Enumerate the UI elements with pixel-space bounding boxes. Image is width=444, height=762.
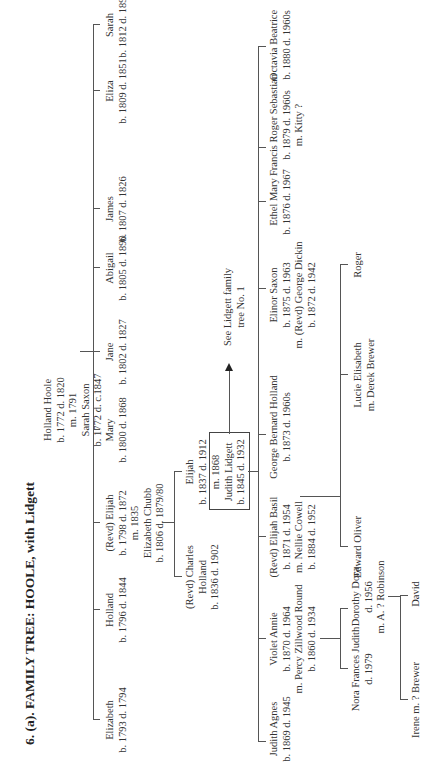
spouse-dates: b. 1845 d. 1932 xyxy=(235,439,248,505)
person-name: Elizabeth xyxy=(104,687,117,753)
connector xyxy=(93,208,100,209)
marriage-year: m. 1835 xyxy=(129,483,142,562)
person-name: Sarah xyxy=(104,0,117,58)
spouse-dates: b. 1860 d. 1934 xyxy=(306,584,319,693)
person-abigail: Abigail b. 1805 d. 1890 xyxy=(104,235,129,301)
person-violet-annie: Violet Annie b. 1870 d. 1964 m. Percy Zi… xyxy=(268,584,318,693)
person-name: Elinor Saxon xyxy=(268,241,281,348)
connector xyxy=(93,522,100,523)
person-dates: b. 1875 d. 1963 xyxy=(281,241,294,348)
person-george-bernard-holland: George Bernard Holland b. 1873 d. 1960s xyxy=(268,375,293,479)
person-dates: b. 1796 d. 1844 xyxy=(117,577,130,643)
spouse-name: m. Derek Brewer xyxy=(365,339,378,412)
person-dates: b. 1880 d. 1960s xyxy=(281,10,294,80)
connector xyxy=(162,522,174,523)
marriage-year: m. 1868 xyxy=(210,439,223,505)
person-dates: b. 1869 d. 1945 xyxy=(281,696,294,762)
root-name: Holland Hoole xyxy=(42,374,55,447)
person-dates: b. 1873 d. 1960s xyxy=(281,375,294,479)
person-name: Francis Roger Sebastian xyxy=(268,74,281,176)
connector xyxy=(258,147,266,148)
spouse-name: m. A. ? Robinson xyxy=(375,560,388,633)
person-francis-roger-sebastian: Francis Roger Sebastian b. 1879 d. 1960s… xyxy=(268,74,306,176)
person-jane: Jane b. 1802 d. 1827 xyxy=(104,319,129,385)
person-mary: Mary b. 1800 d. 1868 xyxy=(104,397,129,463)
person-name: Nora Frances Judith xyxy=(350,627,363,712)
spouse-name: Judith Lidgett xyxy=(223,439,236,505)
person-name: Lucie Elisabeth xyxy=(352,339,365,412)
connector xyxy=(258,288,266,289)
person-revd-charles-holland: (Revd) Charles Holland b. 1836 d. 1902 xyxy=(184,544,222,610)
person-edward-oliver: Edward Oliver xyxy=(352,516,365,578)
person-name: Violet Annie xyxy=(268,584,281,693)
arrow-right-icon xyxy=(225,363,233,371)
connector xyxy=(300,496,340,497)
person-eliza: Eliza b. 1809 d. 1851 xyxy=(104,58,129,124)
connector xyxy=(80,351,100,352)
person-revd-elijah: (Revd) Elijah b. 1798 d. 1872 m. 1835 El… xyxy=(104,483,167,562)
connector xyxy=(93,24,100,25)
person-name: Jane xyxy=(104,319,117,385)
person-dates: b. 1802 d. 1827 xyxy=(117,319,130,385)
person-name: (Revd) Elijah Basil xyxy=(268,496,281,577)
person-sarah: Sarah b. 1812 d. 1894 xyxy=(104,0,129,58)
gen2-bar xyxy=(174,472,175,577)
connector xyxy=(93,90,100,91)
person-dates: b. 1836 d. 1902 xyxy=(209,544,222,610)
person-lucie-elisabeth: Lucie Elisabeth m. Derek Brewer xyxy=(352,339,377,412)
connector xyxy=(340,546,348,547)
root-couple: Holland Hoole b. 1772 d. 1820 m. 1791 Sa… xyxy=(42,374,105,447)
person-dates: b. 1876 d. 1967 xyxy=(281,169,294,235)
connector xyxy=(93,719,100,720)
connector xyxy=(340,608,348,609)
person-dates: b. 1807 d. 1826 xyxy=(117,176,130,242)
gen4-bar-violet xyxy=(340,609,341,669)
connector xyxy=(340,264,348,265)
person-name: Mary xyxy=(104,397,117,463)
gen5-bar xyxy=(400,596,401,700)
connector xyxy=(340,374,348,375)
note-line: tree No. 1 xyxy=(235,268,248,346)
connector xyxy=(248,471,258,472)
person-revd-elijah-basil: (Revd) Elijah Basil b. 1871 d. 1954 m. N… xyxy=(268,496,318,577)
person-judith-agnes: Judith Agnes b. 1869 d. 1945 xyxy=(268,696,293,762)
person-name: Edward Oliver xyxy=(352,516,365,578)
person-james: James b. 1807 d. 1826 xyxy=(104,176,129,242)
connector xyxy=(400,699,408,700)
person-name: George Bernard Holland xyxy=(268,375,281,479)
person-name: Holland xyxy=(104,577,117,643)
person-dates: d. 1979 xyxy=(363,627,376,712)
connector xyxy=(320,638,330,639)
spouse-name: m. Nellie Cowell xyxy=(293,496,306,577)
person-name: Eliza xyxy=(104,58,117,124)
person-ethel-mary: Ethel Mary b. 1876 d. 1967 xyxy=(268,169,293,235)
person-dates: b. 1871 d. 1954 xyxy=(281,496,294,577)
person-name: David xyxy=(410,581,423,607)
note-line: See Lidgett family xyxy=(222,268,235,346)
person-name-cont: Holland xyxy=(197,544,210,610)
spouse-name: Elizabeth Chubb xyxy=(142,483,155,562)
gen1-bar xyxy=(93,25,94,720)
person-name: (Revd) Charles xyxy=(184,544,197,610)
person-name: Elijah xyxy=(184,439,197,505)
person-dates: b. 1793 d. 1794 xyxy=(117,687,130,753)
cross-reference-note: See Lidgett family tree No. 1 xyxy=(222,268,247,346)
person-dates: b. 1879 d. 1960s xyxy=(281,74,294,176)
person-roger: Roger xyxy=(352,252,365,278)
elijah-spouse-block: m. 1868 Judith Lidgett b. 1845 d. 1932 xyxy=(210,439,248,505)
person-elijah: Elijah b. 1837 d. 1912 xyxy=(184,439,209,505)
person-dates: b. 1837 d. 1912 xyxy=(197,439,210,505)
root-dates: b. 1772 d. 1820 xyxy=(55,374,68,447)
person-nora-frances-judith: Nora Frances Judith d. 1979 xyxy=(350,627,375,712)
person-david: David xyxy=(410,581,423,607)
connector xyxy=(258,741,266,742)
person-elizabeth: Elizabeth b. 1793 d. 1794 xyxy=(104,687,129,753)
connector xyxy=(258,201,266,202)
connector xyxy=(330,638,340,639)
person-irene: Irene m. ? Brewer xyxy=(410,662,423,738)
spouse-name: m. (Revd) George Dickin xyxy=(293,241,306,348)
connector xyxy=(174,471,182,472)
person-holland: Holland b. 1796 d. 1844 xyxy=(104,577,129,643)
person-name: Roger xyxy=(352,252,365,278)
connector xyxy=(258,638,266,639)
